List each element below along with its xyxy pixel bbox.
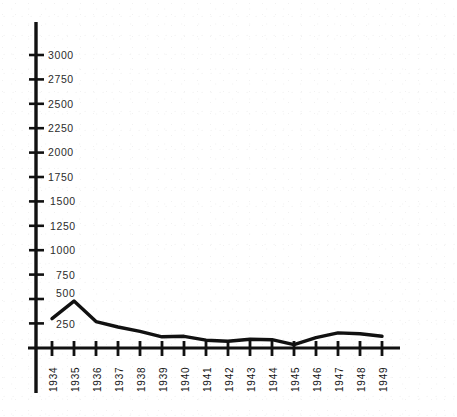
y-tick-label: 1500 [50, 195, 76, 207]
y-tick-label: 2250 [48, 122, 74, 134]
y-tick-label: 1750 [48, 171, 74, 183]
x-tick-label-1946: 1946 [312, 367, 323, 392]
x-tick-label-1934: 1934 [48, 367, 59, 392]
y-tick-label: 500 [56, 287, 75, 299]
y-tick-label: 2000 [48, 146, 74, 158]
y-tick-label: 1000 [50, 244, 76, 256]
x-tick-label-1936: 1936 [92, 367, 103, 392]
x-tick-label-1948: 1948 [356, 367, 367, 392]
y-tick-label: 250 [56, 318, 75, 330]
y-tick-label: 3000 [48, 49, 74, 61]
x-tick-label-1947: 1947 [334, 367, 345, 392]
y-tick-label: 2750 [48, 73, 74, 85]
x-tick-label-1943: 1943 [246, 367, 257, 392]
x-tick-label-1935: 1935 [70, 367, 81, 392]
x-tick-label-1938: 1938 [136, 367, 147, 392]
x-tick-label-1942: 1942 [224, 367, 235, 392]
x-tick-label-1944: 1944 [268, 367, 279, 392]
line-chart: 3000 2750 2500 2250 2000 1750 1500 1250 … [0, 0, 457, 417]
y-tick-label: 750 [56, 269, 75, 281]
x-tick-label-1941: 1941 [202, 367, 213, 392]
x-tick-label-1939: 1939 [158, 367, 169, 392]
data-series-line [52, 301, 382, 345]
x-tick-label-1937: 1937 [114, 367, 125, 392]
y-tick-label: 2500 [48, 98, 74, 110]
y-tick-label: 1250 [50, 220, 76, 232]
chart-canvas [0, 0, 457, 417]
x-tick-label-1940: 1940 [180, 367, 191, 392]
x-tick-label-1945: 1945 [290, 367, 301, 392]
x-tick-label-1949: 1949 [378, 367, 389, 392]
